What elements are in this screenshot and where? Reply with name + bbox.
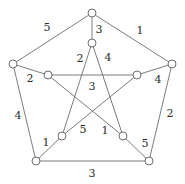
inner-vertex-right — [133, 71, 141, 79]
outer-vertex-bottom-left — [32, 157, 40, 165]
edge-spoke-bottom-right-label: 5 — [142, 138, 149, 149]
edge-spoke-right-label: 4 — [155, 74, 162, 85]
edge-star-right-bottom-left-label: 5 — [80, 124, 87, 135]
edge-star-top-bottom-right-label: 4 — [105, 52, 112, 63]
edge-spoke-top-label: 3 — [96, 24, 103, 35]
edge-outer-top-right-label: 1 — [137, 25, 144, 36]
inner-vertex-top — [88, 39, 96, 47]
edge-spoke-bottom-left-label: 1 — [43, 137, 50, 148]
edge-outer-top-left-label: 5 — [44, 22, 51, 33]
outer-vertex-bottom-right — [145, 157, 153, 165]
edge-star-top-bottom-left-label: 2 — [77, 53, 84, 64]
inner-vertex-left — [44, 71, 52, 79]
petersen-graph-figure: 512343451224315 — [0, 0, 185, 184]
inner-vertex-bottom-right — [119, 132, 127, 140]
outer-vertex-right — [168, 60, 176, 68]
edge-star-right-bottom-left — [65, 78, 134, 134]
outer-vertex-top — [88, 9, 96, 17]
edge-outer-bottom-label: 3 — [89, 168, 96, 179]
edge-star-left-right-label: 3 — [89, 81, 96, 92]
edge-star-left-bottom-right-label: 1 — [102, 125, 109, 136]
inner-vertex-bottom-left — [58, 132, 66, 140]
edge-spoke-left-label: 2 — [27, 73, 34, 84]
edge-outer-right-label: 2 — [167, 108, 174, 119]
edge-outer-left-label: 4 — [15, 110, 22, 121]
outer-vertex-left — [9, 60, 17, 68]
